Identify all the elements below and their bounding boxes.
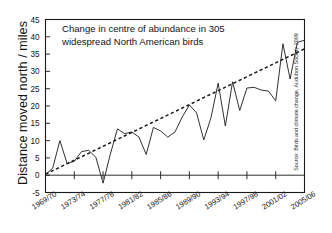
y-axis-tick-label: 0 (35, 171, 40, 180)
chart-svg: -5051015202530354045 1969/701973/741977/… (0, 0, 332, 233)
plot-area: -5051015202530354045 1969/701973/741977/… (0, 0, 332, 233)
y-axis-tick-label: 45 (30, 16, 40, 25)
data-series-line (46, 40, 305, 183)
chart-figure: Distance moved north / miles Source: Bir… (0, 0, 332, 233)
y-axis-tick-label: 30 (30, 67, 40, 76)
y-axis-tick-label: 40 (30, 33, 40, 42)
y-axis-tick-labels: -5051015202530354045 (30, 16, 40, 198)
trend-line (46, 49, 305, 174)
chart-annotation-line-2: widespread North American birds (61, 36, 204, 47)
y-axis-tick-label: 20 (30, 102, 40, 111)
y-axis-tick-label: 10 (30, 137, 40, 146)
y-axis-ticks (46, 20, 51, 193)
y-axis-tick-label: 25 (30, 85, 40, 94)
y-axis-tick-label: -5 (32, 189, 40, 198)
y-axis-tick-label: 5 (35, 154, 40, 163)
chart-annotation-line-1: Change in centre of abundance in 305 (62, 23, 225, 34)
y-axis-tick-label: 35 (30, 50, 40, 59)
y-axis-tick-label: 15 (30, 119, 40, 128)
